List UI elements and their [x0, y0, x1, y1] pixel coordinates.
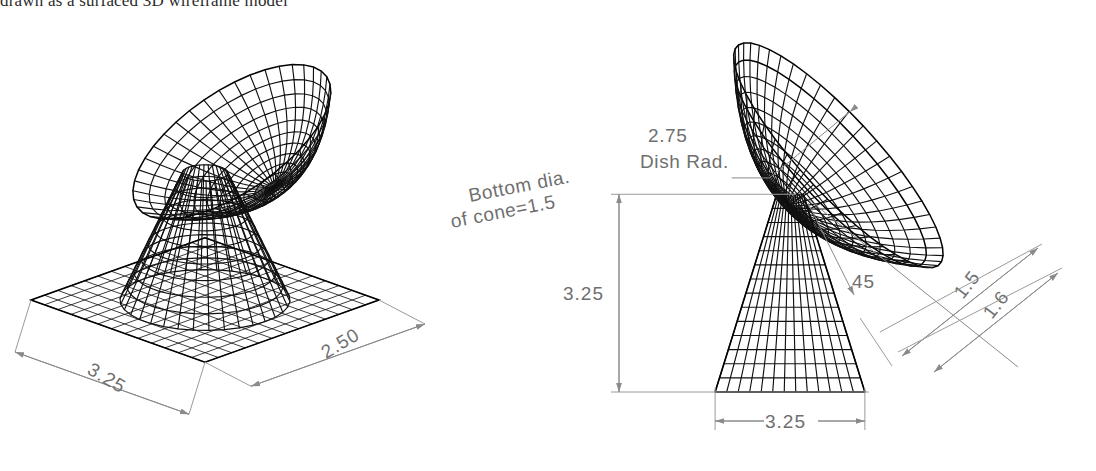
note-dish-radius-label: Dish Rad. — [640, 151, 729, 172]
dim-cone-base-width: 3.25 — [765, 411, 806, 432]
note-dish-radius-value: 2.75 — [648, 125, 687, 146]
drawing-canvas: drawn as a surfaced 3D wireframe model 3… — [0, 0, 1096, 471]
dim-cone-height: 3.25 — [563, 283, 604, 304]
dim-dish-angle: 45 — [852, 271, 875, 292]
right-figure-elevation: 3.253.252.75Dish Rad.Bottom dia.of cone=… — [0, 0, 1096, 471]
dim-rim-offset-b: 1.6 — [979, 286, 1014, 322]
elevation-wireframe-mesh — [715, 43, 943, 392]
